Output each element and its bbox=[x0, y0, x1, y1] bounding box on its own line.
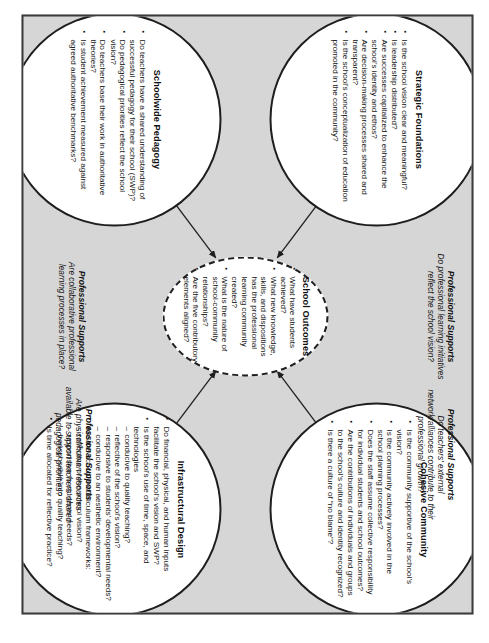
ps-question: Are collaborative professional learning … bbox=[55, 246, 75, 386]
list-item: Is the community actively involved in th… bbox=[374, 420, 393, 598]
list-item: What have students achieved? bbox=[277, 267, 296, 365]
ps-question: Do professional learning initiatives ref… bbox=[424, 246, 444, 386]
list-item: Is the school's use of time, space, and … bbox=[93, 417, 150, 601]
question-list-schoolwide-pedagogy: Do teachers have a shared understanding … bbox=[67, 30, 145, 208]
question-list-strategic-foundations: Is the school vision clear and meaningfu… bbox=[329, 30, 408, 208]
sublist-item: responsive to students' developmental ne… bbox=[102, 426, 112, 601]
sublist-item: conducive to quality teaching? bbox=[121, 426, 131, 601]
list-item: Do teachers base their work in authorita… bbox=[87, 30, 106, 208]
circle-infrastructural-design[interactable]: Infrastructural Design Do financial, phy… bbox=[21, 402, 221, 614]
list-item: Is leadership distributed? bbox=[388, 30, 398, 208]
ps-title: Professional Supports bbox=[445, 384, 455, 524]
ps-question: Do teachers' external network/alliances … bbox=[414, 384, 444, 524]
ps-title: Professional Supports bbox=[76, 246, 86, 386]
circle-school-outcomes[interactable]: School Outcomes What have students achie… bbox=[162, 256, 328, 376]
list-item: What new knowledge, skills, and disposit… bbox=[229, 267, 277, 365]
list-item: Is there a culture of “no blame”? bbox=[325, 420, 335, 598]
list-item: Are successes capitalized to enhance the… bbox=[369, 30, 388, 208]
circle-schoolwide-pedagogy[interactable]: Schoolwide Pedagogy Do teachers have a s… bbox=[21, 14, 221, 226]
list-item: Is the community supportive of the schoo… bbox=[394, 420, 413, 598]
professional-supports-bottom-right: Professional Supports Are physical/human… bbox=[52, 384, 93, 524]
list-item: Is student achievement measured against … bbox=[68, 30, 87, 208]
professional-supports-top-left: Professional Supports Do professional le… bbox=[424, 246, 455, 386]
list-item: Do financial, physical, and human inputs… bbox=[150, 417, 169, 601]
list-item: Are decision-making processes shared and… bbox=[349, 30, 368, 208]
question-list-school-outcomes: What have students achieved? What new kn… bbox=[180, 267, 297, 365]
list-item-text: Is the school's use of time, space, and … bbox=[131, 426, 150, 563]
ps-title: Professional Supports bbox=[445, 246, 455, 386]
circle-title-school-outcomes: School Outcomes bbox=[300, 276, 310, 356]
question-list-cohesive-community: Is the community supportive of the schoo… bbox=[324, 420, 412, 598]
professional-supports-top-right: Professional Supports Do teachers' exter… bbox=[414, 384, 455, 524]
list-item: Does the staff assume collective respons… bbox=[354, 420, 373, 598]
diagram-rotator: Strategic Foundations Is the school visi… bbox=[0, 0, 489, 643]
list-item: Is the school vision clear and meaningfu… bbox=[398, 30, 408, 208]
sublist-item: conducive to an aesthetic environment? bbox=[93, 426, 103, 601]
ps-title: Professional Supports bbox=[83, 384, 93, 524]
sublist-technologies: conducive to quality teaching? reflectiv… bbox=[93, 426, 131, 601]
list-item: Do teachers have a shared understanding … bbox=[127, 30, 146, 208]
circle-title-schoolwide-pedagogy: Schoolwide Pedagogy bbox=[151, 69, 161, 168]
circle-title-infrastructural-design: Infrastructural Design bbox=[175, 460, 185, 558]
diagram-frame: Strategic Foundations Is the school visi… bbox=[21, 14, 473, 614]
list-item: Are the five contributory elements align… bbox=[180, 267, 199, 365]
list-item: Is the school's conceptualization of edu… bbox=[330, 30, 349, 208]
list-item: What is the nature of school-community r… bbox=[200, 267, 229, 365]
sublist-item: reflective of the school's vision? bbox=[112, 426, 122, 601]
circle-title-strategic-foundations: Strategic Foundations bbox=[413, 69, 423, 168]
ps-question: Are physical/human resources available t… bbox=[52, 384, 82, 524]
circle-strategic-foundations[interactable]: Strategic Foundations Is the school visi… bbox=[269, 14, 473, 226]
list-item: Do pedagogical priorities reflect the sc… bbox=[107, 30, 126, 208]
list-item: Are the contributions of individuals and… bbox=[335, 420, 354, 598]
professional-supports-bottom-left: Professional Supports Are collaborative … bbox=[55, 246, 86, 386]
